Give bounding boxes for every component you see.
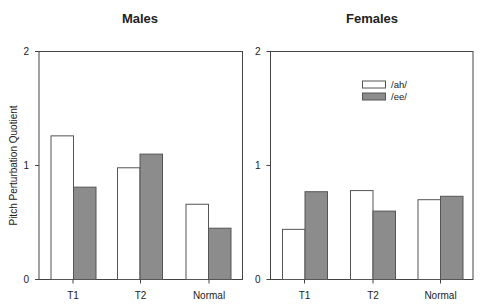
y-tick-label: 1 <box>23 160 29 171</box>
bar-t1-ee <box>305 192 328 280</box>
y-tick-label: 2 <box>255 46 261 57</box>
panel-title: Females <box>346 11 398 26</box>
bar-t2-ee <box>140 154 163 279</box>
bar-normal-ah <box>418 200 441 280</box>
x-tick-label: T2 <box>367 290 379 301</box>
x-tick-label: Normal <box>424 290 456 301</box>
y-tick-label: 1 <box>255 160 261 171</box>
panel-females: Females012T1T2Normal/ah//ee/ <box>255 11 473 301</box>
bar-normal-ee <box>209 228 232 279</box>
bar-normal-ee <box>441 196 464 279</box>
panel-males: Males012Pitch Perturbation QuotientT1T2N… <box>8 11 243 301</box>
panel-title: Males <box>122 11 158 26</box>
legend-swatch-ah <box>363 81 386 88</box>
bar-t2-ee <box>373 211 396 279</box>
bar-t1-ah <box>51 136 74 280</box>
legend-swatch-ee <box>363 93 386 100</box>
bar-normal-ah <box>186 204 209 279</box>
y-tick-label: 0 <box>23 274 29 285</box>
legend-label: /ee/ <box>391 91 407 102</box>
legend: /ah//ee/ <box>363 79 408 102</box>
bar-t2-ah <box>351 191 374 280</box>
x-tick-label: T1 <box>299 290 311 301</box>
y-axis-label: Pitch Perturbation Quotient <box>8 105 19 225</box>
bar-t1-ah <box>283 229 306 279</box>
legend-label: /ah/ <box>391 79 407 90</box>
x-tick-label: T2 <box>135 290 147 301</box>
bar-t1-ee <box>74 187 97 279</box>
chart-figure: Males012Pitch Perturbation QuotientT1T2N… <box>0 0 481 308</box>
bar-t2-ah <box>118 168 141 280</box>
y-tick-label: 0 <box>255 274 261 285</box>
y-tick-label: 2 <box>23 46 29 57</box>
x-tick-label: Normal <box>193 290 225 301</box>
x-tick-label: T1 <box>67 290 79 301</box>
